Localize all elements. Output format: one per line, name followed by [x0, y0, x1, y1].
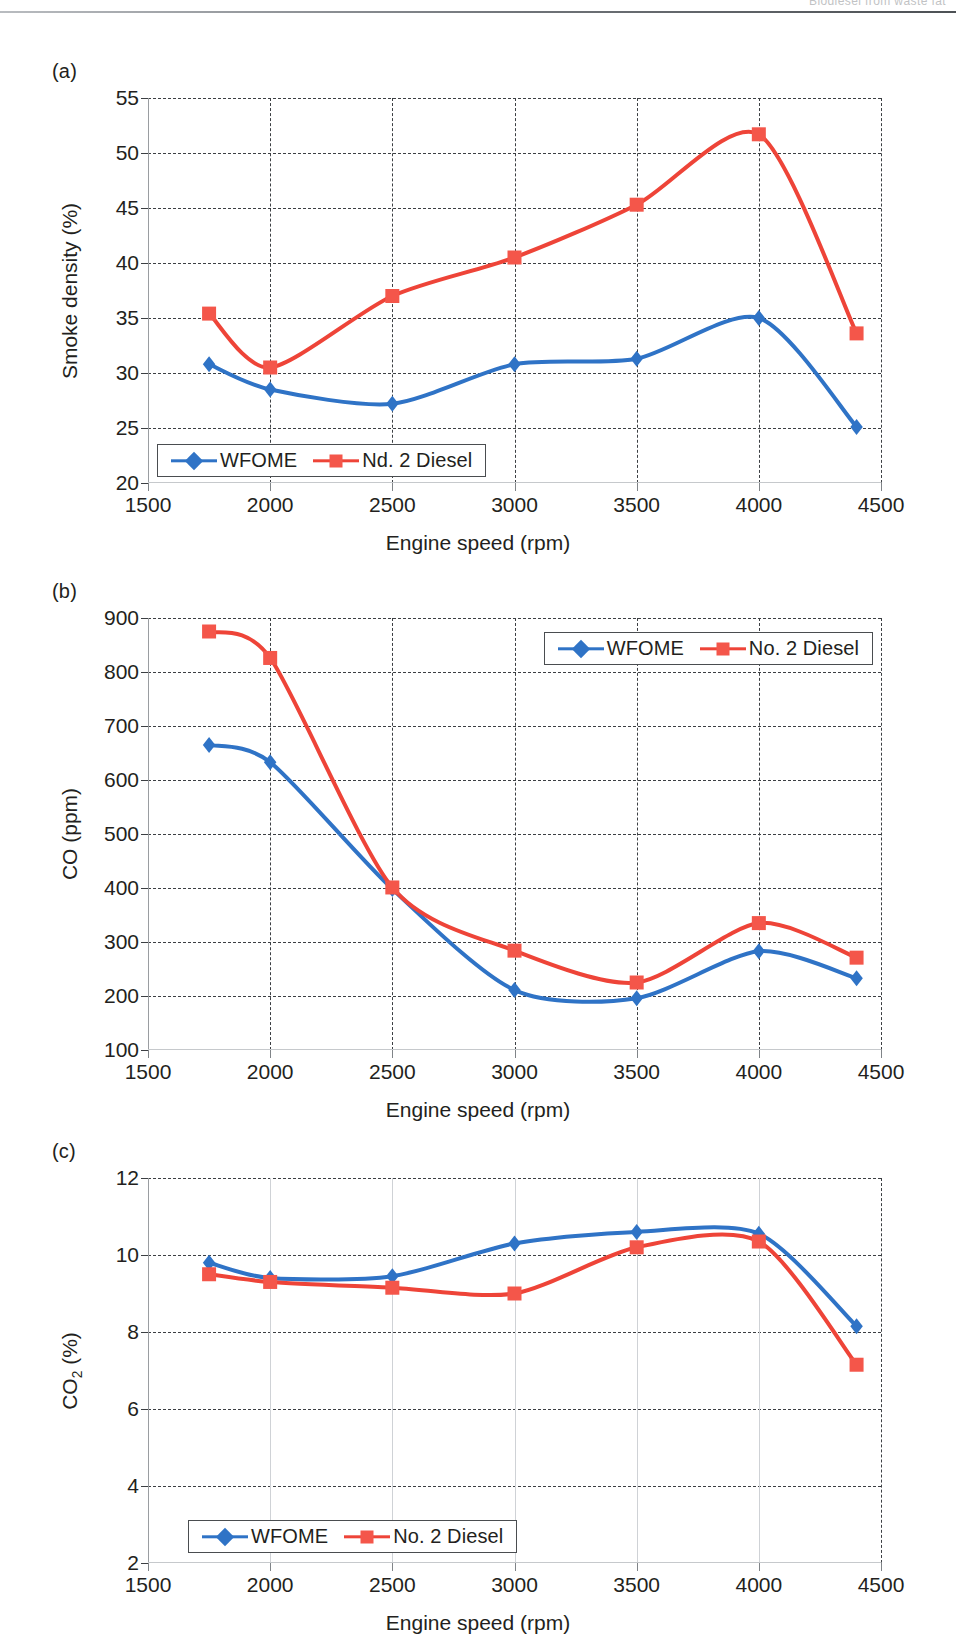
x-axis-label: Engine speed (rpm) [0, 531, 956, 555]
y-tick-label: 20 [116, 471, 139, 495]
data-point-marker [508, 1235, 520, 1251]
x-tick-mark [392, 482, 393, 491]
data-point-marker [850, 326, 864, 340]
gridline-vertical [881, 618, 882, 1050]
y-tick-label: 40 [116, 251, 139, 275]
x-tick-label: 3500 [613, 1573, 660, 1597]
x-tick-label: 2000 [247, 1573, 294, 1597]
y-tick-label: 100 [104, 1038, 139, 1062]
chart-legend: WFOMENo. 2 Diesel [188, 1520, 517, 1553]
figure-panel-a: (a) 202530354045505515002000250030003500… [0, 52, 956, 572]
legend-swatch-marker [216, 1527, 234, 1545]
x-tick-mark [637, 482, 638, 491]
legend-label: WFOME [251, 1525, 328, 1548]
x-axis-label: Engine speed (rpm) [0, 1611, 956, 1635]
plot-area-b: 1002003004005006007008009001500200025003… [148, 618, 881, 1050]
y-axis-label: CO (ppm) [58, 788, 82, 880]
x-tick-mark [515, 1049, 516, 1058]
y-tick-label: 700 [104, 714, 139, 738]
plot-area-a: 2025303540455055150020002500300035004000… [148, 98, 881, 483]
data-point-marker [386, 396, 398, 412]
x-tick-label: 2500 [369, 493, 416, 517]
y-tick-label: 4 [127, 1474, 139, 1498]
series-line-no-2-diesel [209, 1235, 856, 1365]
y-tick-label: 12 [116, 1166, 139, 1190]
y-tick-label: 6 [127, 1397, 139, 1421]
data-point-marker [203, 356, 215, 372]
y-tick-label: 30 [116, 361, 139, 385]
y-tick-label: 55 [116, 86, 139, 110]
legend-label: No. 2 Diesel [749, 637, 859, 660]
y-tick-label: 400 [104, 876, 139, 900]
y-tick-label: 45 [116, 196, 139, 220]
x-tick-label: 3500 [613, 1060, 660, 1084]
x-tick-label: 3000 [491, 493, 538, 517]
data-point-marker [752, 916, 766, 930]
gridline-vertical [881, 1178, 882, 1563]
legend-entry[interactable]: No. 2 Diesel [344, 1525, 503, 1548]
x-tick-mark [881, 482, 882, 491]
x-tick-mark [515, 1562, 516, 1571]
legend-marker-square-icon [313, 452, 359, 470]
y-axis-label: Smoke density (%) [58, 202, 82, 378]
data-point-marker [263, 1275, 277, 1289]
data-point-marker [850, 951, 864, 965]
y-tick-label: 600 [104, 768, 139, 792]
y-tick-label: 25 [116, 416, 139, 440]
plot-area-c: 246810121500200025003000350040004500WFOM… [148, 1178, 881, 1563]
data-point-marker [508, 356, 520, 372]
series-line-wfome [209, 745, 856, 1002]
legend-entry[interactable]: No. 2 Diesel [700, 637, 859, 660]
legend-label: WFOME [220, 449, 297, 472]
data-point-marker [753, 943, 765, 959]
x-axis-label: Engine speed (rpm) [0, 1098, 956, 1122]
x-tick-label: 3000 [491, 1573, 538, 1597]
legend-swatch-marker [361, 1530, 374, 1543]
x-tick-mark [881, 1049, 882, 1058]
data-point-marker [850, 1358, 864, 1372]
legend-entry[interactable]: WFOME [171, 449, 297, 472]
x-tick-label: 2500 [369, 1573, 416, 1597]
legend-marker-diamond-icon [202, 1528, 248, 1546]
series-line-nd-2-diesel [209, 132, 856, 368]
series-line-wfome [209, 317, 856, 427]
x-tick-label: 2000 [247, 493, 294, 517]
legend-label: Nd. 2 Diesel [362, 449, 472, 472]
x-tick-mark [881, 1562, 882, 1571]
y-tick-label: 300 [104, 930, 139, 954]
data-point-marker [203, 737, 215, 753]
legend-entry[interactable]: Nd. 2 Diesel [313, 449, 472, 472]
x-tick-mark [637, 1049, 638, 1058]
data-point-marker [264, 382, 276, 398]
legend-entry[interactable]: WFOME [202, 1525, 328, 1548]
data-point-marker [202, 1267, 216, 1281]
page-header-rule [0, 11, 956, 13]
data-point-marker [630, 351, 642, 367]
x-tick-mark [148, 1049, 149, 1058]
data-point-marker [385, 1281, 399, 1295]
data-point-marker [202, 625, 216, 639]
data-point-marker [630, 976, 644, 990]
data-point-marker [508, 251, 522, 265]
y-tick-label: 500 [104, 822, 139, 846]
legend-swatch-marker [330, 454, 343, 467]
gridline-vertical [881, 98, 882, 483]
series-layer [148, 618, 881, 1050]
x-tick-mark [392, 1049, 393, 1058]
x-tick-label: 4500 [858, 1573, 905, 1597]
panel-label-a: (a) [52, 60, 77, 83]
x-tick-mark [392, 1562, 393, 1571]
data-point-marker [263, 361, 277, 375]
legend-marker-square-icon [344, 1528, 390, 1546]
data-point-marker [753, 310, 765, 326]
x-tick-mark [515, 482, 516, 491]
chart-legend: WFOMENd. 2 Diesel [157, 444, 486, 477]
legend-swatch-marker [572, 639, 590, 657]
x-tick-label: 2000 [247, 1060, 294, 1084]
x-tick-label: 3500 [613, 493, 660, 517]
x-tick-mark [637, 1562, 638, 1571]
data-point-marker [508, 944, 522, 958]
legend-entry[interactable]: WFOME [558, 637, 684, 660]
legend-label: WFOME [607, 637, 684, 660]
x-tick-label: 4500 [858, 493, 905, 517]
